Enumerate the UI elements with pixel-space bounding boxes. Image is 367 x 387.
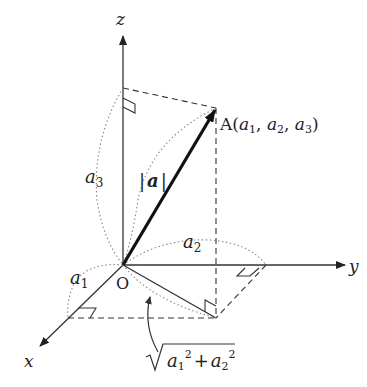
origin-to-footprint-line	[123, 265, 216, 318]
sqrt-pointer-arrow	[148, 297, 158, 352]
vector-magnitude-diagram: z y x O A(a1, a2, a3) |a| a3 a2 a1 a12+a…	[0, 0, 367, 387]
z-to-A-dashed	[123, 88, 216, 108]
a2-label: a2	[183, 231, 201, 255]
diagram-canvas: z y x O A(a1, a2, a3) |a| a3 a2 a1 a12+a…	[0, 0, 367, 387]
right-angle-y	[237, 268, 259, 276]
right-angle-footprint	[205, 300, 216, 312]
z-axis-label: z	[115, 9, 126, 29]
a3-label: a3	[85, 166, 103, 190]
x-axis-label: x	[24, 351, 34, 371]
right-angle-x	[78, 308, 96, 318]
a1-label: a1	[70, 267, 88, 291]
axes	[40, 36, 345, 346]
sqrt-content: a12+a22	[167, 348, 236, 373]
origin-label: O	[116, 274, 129, 293]
right-angle-z	[123, 98, 135, 113]
sqrt-expression: a12+a22	[146, 344, 236, 373]
magnitude-label: |a|	[139, 170, 167, 192]
point-A-label: A(a1, a2, a3)	[219, 114, 319, 136]
y-axis-label: y	[348, 256, 359, 276]
y-to-footprint-dashed	[216, 265, 266, 318]
